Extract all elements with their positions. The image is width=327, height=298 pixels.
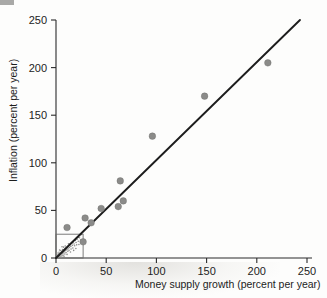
cluster-point	[67, 248, 69, 250]
cluster-point	[61, 246, 63, 248]
y-tick-label: 50	[35, 204, 47, 216]
data-point	[120, 198, 127, 205]
cluster-point	[69, 247, 71, 249]
cluster-point	[58, 252, 60, 254]
data-point	[265, 60, 272, 67]
data-point	[88, 219, 95, 226]
cluster-point	[78, 240, 80, 242]
x-tick-label: 150	[197, 265, 215, 277]
cluster-point	[60, 256, 62, 258]
cluster-point	[64, 245, 66, 247]
cluster-point	[74, 245, 76, 247]
data-point-group	[64, 60, 271, 246]
data-point	[82, 215, 89, 222]
cluster-point	[76, 244, 78, 246]
cluster-point	[75, 248, 77, 250]
x-tick-label: 250	[298, 265, 316, 277]
data-point	[149, 133, 156, 140]
y-axis-ticks: 050100150200250	[29, 14, 56, 264]
cluster-point	[63, 256, 65, 258]
data-point	[98, 205, 105, 212]
cluster-point	[66, 254, 68, 256]
scatter-plot-canvas: 050100150200250 050100150200250 Inflatio…	[0, 0, 327, 298]
x-axis-ticks: 050100150200250	[53, 258, 316, 277]
x-tick-label: 100	[147, 265, 165, 277]
cluster-point	[56, 252, 58, 254]
cluster-point	[63, 246, 65, 248]
cluster-point	[72, 244, 74, 246]
data-point	[117, 178, 124, 185]
data-point	[115, 203, 122, 210]
cluster-point	[65, 252, 67, 254]
y-tick-label: 200	[29, 62, 47, 74]
chart-figure: 050100150200250 050100150200250 Inflatio…	[0, 0, 327, 298]
y-tick-label: 100	[29, 157, 47, 169]
cluster-point	[78, 244, 80, 246]
x-tick-label: 50	[100, 265, 112, 277]
cluster-point	[70, 248, 72, 250]
y-tick-label: 250	[29, 14, 47, 26]
cluster-point	[75, 242, 77, 244]
data-point	[64, 224, 71, 231]
data-point	[201, 93, 208, 100]
x-tick-label: 0	[53, 265, 59, 277]
y-axis-title: Inflation (percent per year)	[7, 59, 19, 182]
cluster-point	[59, 249, 61, 251]
cluster-point	[67, 251, 69, 253]
cluster-point	[68, 249, 70, 251]
cluster-point	[70, 246, 72, 248]
cluster-point	[72, 247, 74, 249]
cluster-point	[70, 251, 72, 253]
data-point	[80, 239, 87, 246]
y-tick-label: 150	[29, 109, 47, 121]
cluster-point	[73, 250, 75, 252]
x-axis-title: Money supply growth (percent per year)	[135, 278, 321, 290]
cluster-point	[64, 253, 66, 255]
y-tick-label: 0	[41, 252, 47, 264]
cluster-point	[73, 243, 75, 245]
x-tick-label: 200	[248, 265, 266, 277]
